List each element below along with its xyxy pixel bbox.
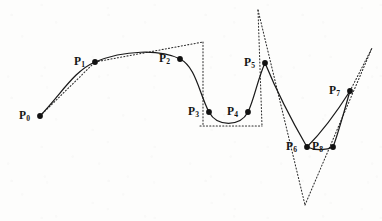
label-subscript-index: 0 (26, 114, 30, 123)
poly-v-right-up (305, 48, 372, 205)
control-point-dot-p5[interactable] (262, 60, 268, 66)
bezier-figure: P0P1P2P3P4P5P6P7P8 (0, 0, 382, 221)
label-subscript-index: 4 (234, 110, 238, 119)
segment-p6-p7-outer (307, 91, 350, 147)
label-base-letter: P (74, 55, 81, 67)
poly-p0-p1 (40, 62, 95, 116)
label-subscript-index: 7 (336, 89, 340, 98)
control-point-dot-p8[interactable] (330, 144, 336, 150)
label-base-letter: P (312, 140, 319, 152)
label-base-letter: P (19, 109, 26, 121)
control-point-dot-p1[interactable] (92, 59, 98, 65)
label-base-letter: P (244, 56, 251, 68)
control-point-label-p7: P7 (329, 85, 340, 97)
control-point-label-p2: P2 (159, 53, 170, 65)
label-base-letter: P (159, 52, 166, 64)
segment-p8-p7 (333, 91, 350, 147)
label-subscript-index: 6 (293, 145, 297, 154)
poly-p5-left-up (258, 10, 262, 126)
spline-curve-layer (40, 52, 350, 149)
segment-p5-p6 (265, 63, 307, 147)
control-point-label-p3: P3 (188, 106, 199, 118)
label-subscript-index: 2 (166, 57, 170, 66)
label-base-letter: P (286, 140, 293, 152)
control-point-dot-p0[interactable] (37, 113, 43, 119)
control-point-label-p0: P0 (19, 110, 30, 122)
control-point-label-p5: P5 (244, 57, 255, 69)
segment-p4-p5 (248, 63, 265, 112)
control-point-dot-p4[interactable] (245, 109, 251, 115)
control-point-dot-p7[interactable] (347, 88, 353, 94)
label-subscript-index: 3 (195, 110, 199, 119)
control-point-label-p1: P1 (74, 56, 85, 68)
poly-p5-right-down (258, 10, 305, 205)
control-point-dot-layer (37, 56, 353, 150)
control-polygon-layer (40, 10, 372, 205)
control-point-dot-p6[interactable] (304, 144, 310, 150)
control-point-dot-p2[interactable] (177, 56, 183, 62)
control-point-label-p4: P4 (227, 106, 238, 118)
label-base-letter: P (227, 105, 234, 117)
control-point-dot-p3[interactable] (206, 109, 212, 115)
label-subscript-index: 5 (251, 61, 255, 70)
control-point-label-p8: P8 (312, 141, 323, 153)
label-base-letter: P (188, 105, 195, 117)
label-subscript-index: 8 (319, 145, 323, 154)
control-point-label-p6: P6 (286, 141, 297, 153)
label-base-letter: P (329, 84, 336, 96)
label-subscript-index: 1 (81, 60, 85, 69)
